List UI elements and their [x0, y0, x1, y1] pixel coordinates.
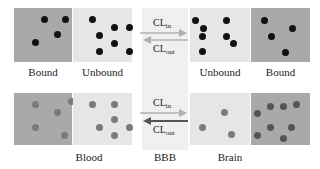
- cl-subscript: out: [166, 48, 175, 56]
- cl-text: CL: [153, 124, 166, 135]
- top-right-bound-label: Bound: [251, 66, 310, 78]
- top-right-unbound-label: Unbound: [190, 66, 250, 78]
- cl-text: CL: [153, 17, 166, 28]
- cl-subscript: out: [166, 129, 175, 137]
- top-left-unbound-label: Unbound: [73, 66, 132, 78]
- top-left-bound-label: Bound: [14, 66, 72, 78]
- top-cl-out-label: CLout: [153, 43, 175, 56]
- brain-label: Brain: [200, 151, 260, 163]
- cl-subscript: in: [166, 102, 171, 110]
- cl-subscript: in: [166, 22, 171, 30]
- bottom-cl-out-label: CLout: [153, 124, 175, 137]
- cl-text: CL: [153, 43, 166, 54]
- bbb-label: BBB: [142, 151, 188, 163]
- top-influx-arrow-icon: [140, 29, 187, 37]
- blood-label: Blood: [60, 151, 118, 163]
- bottom-cl-in-label: CLin: [153, 97, 171, 110]
- cl-text: CL: [153, 97, 166, 108]
- top-cl-in-label: CLin: [153, 17, 171, 30]
- bottom-influx-arrow-icon: [140, 109, 187, 117]
